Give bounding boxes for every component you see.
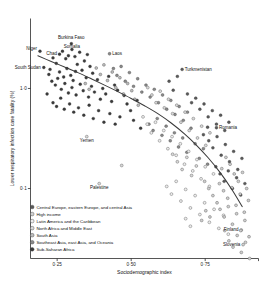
data-point xyxy=(195,165,198,168)
trend-line xyxy=(38,56,242,207)
data-point xyxy=(184,111,187,114)
legend-marker xyxy=(30,205,34,209)
data-point xyxy=(116,74,119,77)
data-point xyxy=(146,123,149,126)
data-point xyxy=(165,185,168,188)
data-point xyxy=(208,131,211,134)
data-point xyxy=(179,121,182,124)
data-point xyxy=(159,90,162,93)
data-point xyxy=(222,189,225,192)
data-point xyxy=(136,77,139,80)
data-point xyxy=(67,92,70,95)
data-point xyxy=(166,147,169,150)
legend-marker xyxy=(30,219,34,223)
data-point xyxy=(237,180,240,183)
chart-figure: 1·00·10·250·500·75Sociodemographic index… xyxy=(0,0,267,284)
legend-layer: Central Europe, eastern Europe, and cent… xyxy=(30,205,132,252)
data-point xyxy=(120,65,123,68)
data-point xyxy=(165,125,168,128)
country-label: Slovenia xyxy=(223,242,241,247)
data-point xyxy=(76,63,79,66)
data-point xyxy=(187,150,190,153)
data-point xyxy=(184,217,187,220)
data-point xyxy=(206,126,209,129)
data-point xyxy=(244,241,247,244)
data-point xyxy=(161,94,164,97)
data-point xyxy=(186,93,189,96)
data-point xyxy=(220,154,223,157)
data-point xyxy=(130,89,133,92)
data-point xyxy=(153,88,156,91)
x-tick-label: 0·75 xyxy=(201,262,211,267)
data-point xyxy=(54,84,57,87)
data-point xyxy=(176,75,179,78)
data-point xyxy=(142,115,145,118)
legend-marker xyxy=(30,212,34,216)
data-point xyxy=(190,101,193,104)
data-point xyxy=(202,147,205,150)
legend-label: Sub-Saharan Africa xyxy=(36,247,75,252)
data-point xyxy=(194,194,197,197)
data-point xyxy=(102,63,105,66)
data-point xyxy=(120,164,123,167)
data-point xyxy=(242,243,245,246)
data-point xyxy=(64,57,67,60)
data-point xyxy=(219,114,222,117)
data-point xyxy=(168,80,171,83)
data-point xyxy=(245,187,248,190)
data-point xyxy=(191,169,194,172)
data-point xyxy=(112,67,115,70)
data-point xyxy=(200,125,203,128)
data-point xyxy=(207,115,210,118)
data-point xyxy=(124,80,127,83)
data-point xyxy=(77,106,80,109)
country-label: Finland xyxy=(224,227,239,232)
data-point xyxy=(52,101,55,104)
data-point xyxy=(172,89,175,92)
data-point xyxy=(175,104,178,107)
data-point xyxy=(55,105,58,108)
data-point xyxy=(181,168,184,171)
y-tick-label: 0·1 xyxy=(20,186,27,191)
data-point xyxy=(132,119,135,122)
data-point xyxy=(58,53,61,56)
data-point xyxy=(79,83,82,86)
data-point xyxy=(207,187,210,190)
data-point xyxy=(170,193,173,196)
data-point xyxy=(192,117,195,120)
data-point xyxy=(47,73,50,76)
data-point xyxy=(227,121,230,124)
data-point xyxy=(217,227,220,230)
data-point xyxy=(167,98,170,101)
data-point xyxy=(239,229,242,232)
legend-marker xyxy=(30,226,34,230)
data-point xyxy=(108,52,111,55)
data-point xyxy=(102,121,105,124)
legend-label: Latin America and the Caribbean xyxy=(36,219,101,224)
data-point xyxy=(248,257,251,260)
data-point xyxy=(50,80,53,83)
data-point xyxy=(111,71,114,74)
data-point xyxy=(204,144,207,147)
data-point xyxy=(240,251,243,254)
data-point xyxy=(206,163,209,166)
legend-label: High income xyxy=(36,212,61,217)
x-axis-title: Sociodemographic index xyxy=(117,269,172,275)
data-point xyxy=(150,94,153,97)
data-point xyxy=(154,121,157,124)
data-point xyxy=(208,216,211,219)
data-point xyxy=(188,129,191,132)
data-point xyxy=(83,60,86,63)
data-point xyxy=(72,111,75,114)
data-point xyxy=(235,204,238,207)
data-point xyxy=(169,139,172,142)
data-point xyxy=(220,167,223,170)
data-point xyxy=(89,65,92,68)
legend-label: Central Europe, eastern Europe, and cent… xyxy=(36,205,132,210)
data-point xyxy=(211,194,214,197)
data-point xyxy=(126,103,129,106)
data-point xyxy=(87,96,90,99)
data-point xyxy=(91,72,94,75)
data-point xyxy=(56,77,59,80)
data-point xyxy=(155,101,158,104)
